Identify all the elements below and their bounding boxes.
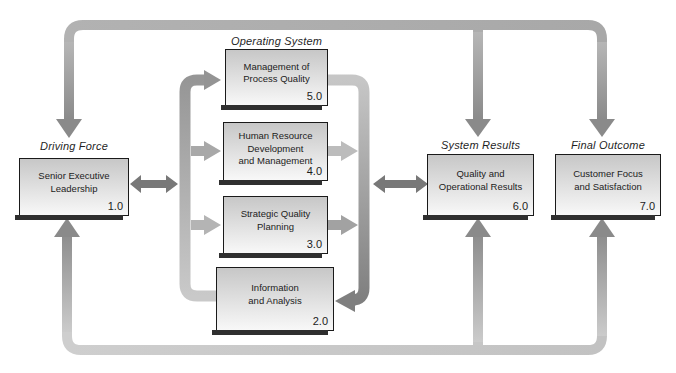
node-title-line: Information bbox=[248, 282, 301, 294]
node-number: 4.0 bbox=[307, 164, 322, 178]
baldrige-framework-diagram: Driving Force Operating System System Re… bbox=[0, 0, 676, 373]
up-arrowhead-to-final-outcome-icon bbox=[589, 218, 615, 237]
node-title-line: Operational Results bbox=[439, 181, 522, 193]
down-arrowhead-to-leadership-icon bbox=[56, 119, 82, 138]
node-title-line: Strategic Quality bbox=[241, 208, 311, 220]
node-title: Human Resource Development and Managemen… bbox=[239, 130, 313, 172]
node-title-line: Leadership bbox=[38, 183, 109, 195]
node-quality-and-operational-results: Quality and Operational Results 6.0 bbox=[427, 154, 534, 216]
node-number: 6.0 bbox=[513, 199, 528, 213]
up-shaft-right bbox=[597, 230, 607, 336]
leadership-distribution-bar bbox=[130, 70, 221, 296]
node-title: Customer Focus and Satisfaction bbox=[573, 168, 643, 202]
node-information-and-analysis: Information and Analysis 2.0 bbox=[216, 267, 334, 331]
arrow-from-strategic-planning-icon bbox=[327, 215, 358, 235]
node-strategic-quality-planning: Strategic Quality Planning 3.0 bbox=[223, 196, 328, 254]
node-title-line: Quality and bbox=[439, 168, 522, 180]
up-shaft-left bbox=[62, 230, 72, 332]
label-operating-system: Operating System bbox=[220, 35, 333, 47]
two-way-arrow-leadership-icon bbox=[130, 175, 178, 193]
label-final-outcome: Final Outcome bbox=[555, 139, 661, 151]
node-title: Information and Analysis bbox=[248, 282, 301, 316]
node-title: Quality and Operational Results bbox=[439, 168, 522, 202]
up-arrowhead-to-system-results-icon bbox=[465, 218, 491, 237]
arrowhead-into-information-icon bbox=[335, 290, 355, 312]
node-customer-focus-and-satisfaction: Customer Focus and Satisfaction 7.0 bbox=[555, 154, 661, 216]
down-arrowhead-to-final-outcome-icon bbox=[589, 119, 615, 137]
node-title: Management of Process Quality bbox=[243, 61, 310, 95]
down-shaft-center bbox=[473, 32, 483, 120]
up-arrowhead-to-leadership-icon bbox=[54, 218, 80, 237]
left-vertical-bar bbox=[185, 80, 216, 296]
bottom-bar bbox=[67, 228, 602, 350]
node-title-line: Senior Executive bbox=[38, 170, 109, 182]
node-title-line: Development bbox=[239, 143, 313, 155]
bottom-feedback-loop bbox=[54, 218, 615, 350]
node-number: 5.0 bbox=[307, 89, 322, 103]
down-shaft-right bbox=[597, 42, 607, 120]
up-shaft-center bbox=[473, 230, 483, 342]
node-title-line: and Satisfaction bbox=[573, 181, 643, 193]
node-human-resource-development: Human Resource Development and Managemen… bbox=[223, 122, 328, 181]
node-number: 1.0 bbox=[108, 199, 123, 213]
node-title-line: and Analysis bbox=[248, 295, 301, 307]
node-title-line: Management of bbox=[243, 61, 310, 73]
node-number: 3.0 bbox=[307, 237, 322, 251]
node-number: 7.0 bbox=[640, 199, 655, 213]
node-title: Strategic Quality Planning bbox=[241, 208, 311, 242]
node-management-of-process-quality: Management of Process Quality 5.0 bbox=[225, 49, 328, 106]
node-title: Senior Executive Leadership bbox=[38, 170, 109, 204]
down-arrowhead-to-system-results-icon bbox=[465, 119, 491, 137]
arrow-from-human-resource-icon bbox=[327, 141, 358, 161]
arrowhead-into-process-quality-icon bbox=[204, 70, 221, 90]
label-driving-force: Driving Force bbox=[19, 140, 129, 152]
down-shaft-left bbox=[64, 42, 74, 120]
two-way-arrow-results-icon bbox=[373, 175, 428, 193]
node-title-line: Customer Focus bbox=[573, 168, 643, 180]
node-title-line: Process Quality bbox=[243, 73, 310, 85]
arrow-into-strategic-planning-icon bbox=[191, 215, 221, 235]
node-senior-executive-leadership: Senior Executive Leadership 1.0 bbox=[19, 158, 129, 216]
node-title-line: Human Resource bbox=[239, 130, 313, 142]
label-system-results: System Results bbox=[427, 139, 534, 151]
node-title-line: and Management bbox=[239, 155, 313, 167]
results-collection-bar bbox=[327, 80, 428, 312]
top-bar bbox=[69, 25, 602, 122]
arrow-into-human-resource-icon bbox=[191, 141, 221, 161]
node-number: 2.0 bbox=[313, 314, 328, 328]
node-title-line: Planning bbox=[241, 221, 311, 233]
